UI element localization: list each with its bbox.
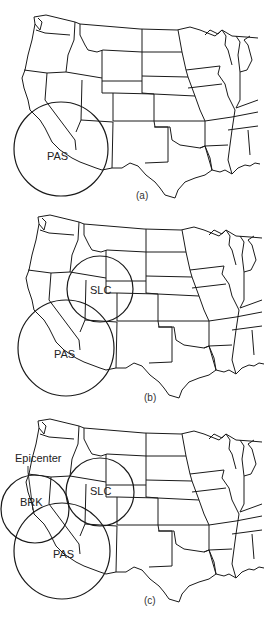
station-label-pas: PAS <box>53 548 74 560</box>
panel-caption: (a) <box>136 190 148 201</box>
brk-radius-circle <box>1 475 69 543</box>
panel-caption: (b) <box>144 392 156 403</box>
panel-c: BRK SLC PAS Epicenter (c) <box>1 419 264 606</box>
us-map-outline <box>22 15 260 198</box>
panel-caption: (c) <box>144 595 156 606</box>
station-label-pas: PAS <box>54 348 75 360</box>
epicenter-label: Epicenter <box>15 452 62 464</box>
pas-radius-circle <box>14 102 108 196</box>
figure: PAS (a) SLC PAS (b) BRK SLC PAS Epicente… <box>0 0 276 621</box>
station-label-slc: SLC <box>90 485 111 497</box>
station-label-pas: PAS <box>47 150 68 162</box>
us-map-outline <box>26 215 264 398</box>
panel-a: PAS (a) <box>14 15 260 201</box>
station-label-slc: SLC <box>90 284 111 296</box>
panel-b: SLC PAS (b) <box>18 215 264 403</box>
us-map-outline <box>26 419 264 602</box>
